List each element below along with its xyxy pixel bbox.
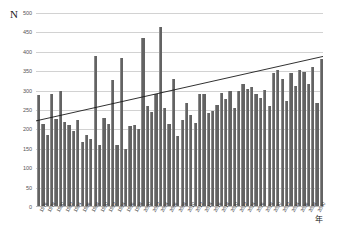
bar xyxy=(159,27,162,207)
bar xyxy=(41,124,44,207)
bar xyxy=(128,126,131,207)
bar xyxy=(294,86,297,207)
plot-area xyxy=(36,13,323,207)
bar xyxy=(67,125,70,207)
y-axis-ticks: 050100150200250300350400450500 xyxy=(0,13,34,207)
bar xyxy=(272,73,275,207)
bar xyxy=(289,73,292,207)
bar xyxy=(146,106,149,207)
y-axis-tick-label: 500 xyxy=(0,10,32,16)
bar xyxy=(298,70,301,207)
bar xyxy=(233,108,236,207)
bar xyxy=(246,89,249,207)
y-axis-tick-label: 450 xyxy=(0,29,32,35)
bar xyxy=(320,59,323,207)
y-axis-tick-label: 50 xyxy=(0,185,32,191)
bar xyxy=(254,94,257,207)
y-axis-tick-label: 400 xyxy=(0,49,32,55)
bar xyxy=(315,103,318,207)
bar xyxy=(98,145,101,207)
y-axis-tick-label: 100 xyxy=(0,165,32,171)
bar xyxy=(268,106,271,207)
bar xyxy=(81,142,84,207)
bar xyxy=(202,94,205,207)
bar xyxy=(176,136,179,207)
bar xyxy=(154,94,157,207)
x-axis-labels: 1976197819801982198419861988199019921994… xyxy=(36,208,323,242)
bar xyxy=(302,72,305,207)
bar xyxy=(107,124,110,207)
chart-container: N 050100150200250300350400450500 1976197… xyxy=(0,0,337,244)
gridline xyxy=(36,32,323,33)
bar xyxy=(76,120,79,207)
bar xyxy=(102,118,105,207)
bar xyxy=(189,115,192,207)
bar xyxy=(224,99,227,207)
gridline xyxy=(36,13,323,14)
bar xyxy=(94,56,97,207)
bar xyxy=(72,131,75,207)
bar xyxy=(194,123,197,207)
bar xyxy=(250,87,253,207)
y-axis-tick-label: 300 xyxy=(0,88,32,94)
bar xyxy=(37,95,40,207)
bar xyxy=(172,79,175,207)
y-axis-tick-label: 200 xyxy=(0,126,32,132)
y-axis-tick-label: 0 xyxy=(0,204,32,210)
y-axis-tick-label: 150 xyxy=(0,146,32,152)
gridline xyxy=(36,52,323,53)
bar xyxy=(220,93,223,207)
bar xyxy=(120,58,123,207)
bar xyxy=(281,79,284,207)
bar xyxy=(63,122,66,207)
bar xyxy=(85,135,88,207)
bar xyxy=(276,70,279,207)
bar xyxy=(237,91,240,207)
bar xyxy=(207,113,210,207)
bar xyxy=(89,139,92,207)
bar xyxy=(163,108,166,207)
bar xyxy=(111,80,114,207)
bar xyxy=(259,98,262,207)
bar xyxy=(228,91,231,207)
bar xyxy=(241,84,244,207)
bar xyxy=(150,112,153,207)
bar xyxy=(167,124,170,207)
bar xyxy=(215,105,218,207)
bar xyxy=(133,125,136,207)
bar xyxy=(263,90,266,207)
bar xyxy=(181,120,184,207)
bar xyxy=(198,94,201,207)
bar xyxy=(50,94,53,207)
bar xyxy=(285,101,288,207)
bar xyxy=(137,129,140,207)
bar xyxy=(59,91,62,207)
x-axis-title: 年 xyxy=(315,213,323,224)
bar xyxy=(54,119,57,207)
y-axis-tick-label: 250 xyxy=(0,107,32,113)
gridline xyxy=(36,71,323,72)
bar xyxy=(46,135,49,207)
bar xyxy=(141,38,144,207)
bar xyxy=(115,145,118,207)
bar xyxy=(311,67,314,207)
bar xyxy=(185,103,188,207)
bar xyxy=(211,111,214,207)
y-axis-tick-label: 350 xyxy=(0,68,32,74)
bar xyxy=(124,149,127,207)
bar xyxy=(307,84,310,207)
